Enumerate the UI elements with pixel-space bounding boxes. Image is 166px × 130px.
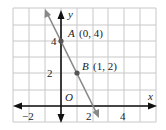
x-axis-label: x (147, 90, 153, 102)
origin-label: O (65, 91, 73, 103)
y-tick-2: 2 (47, 67, 53, 79)
line-top-arrow-icon (45, 9, 52, 18)
coordinate-plane: y x O 4 2 −2 2 4 A (0, 4) B (1, 2) (0, 0, 166, 130)
x-tick-2: 2 (86, 110, 92, 122)
point-b (74, 70, 79, 75)
y-axis-up-arrow-icon (58, 10, 65, 19)
x-tick-neg2: −2 (22, 110, 34, 122)
point-a-name: A (67, 27, 75, 39)
point-a (58, 38, 63, 43)
x-axis-left-arrow-icon (13, 103, 22, 110)
x-tick-4: 4 (120, 110, 126, 122)
point-b-name: B (82, 60, 89, 72)
point-b-coords: (1, 2) (93, 60, 117, 73)
y-axis-label: y (67, 8, 73, 20)
y-tick-4: 4 (51, 35, 57, 47)
x-axis (13, 103, 157, 110)
point-a-coords: (0, 4) (79, 27, 103, 40)
